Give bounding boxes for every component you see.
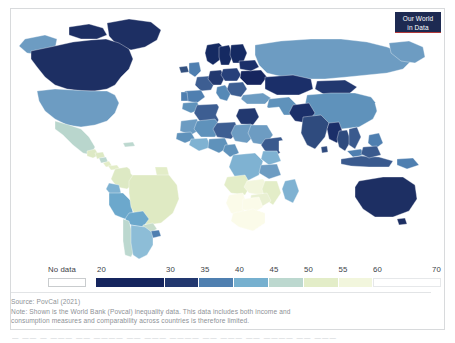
country-canada-arctic-isles[interactable]: [69, 24, 107, 39]
country-cuba[interactable]: [103, 135, 125, 142]
owid-choropleth-figure: Our World in Data No data 20303540455055…: [0, 0, 455, 343]
legend-bin-40-45[interactable]: [234, 278, 269, 287]
country-mongolia[interactable]: [315, 80, 357, 95]
legend-tick-45: 45: [270, 265, 279, 274]
country-papua-new-guinea[interactable]: [397, 158, 419, 169]
chart-footer: Source: PovCal (2021) Note: Shown is the…: [11, 292, 431, 326]
country-hispaniola[interactable]: [123, 142, 135, 147]
country-australia[interactable]: [355, 177, 417, 217]
legend-bin-20-30[interactable]: [96, 278, 165, 287]
country-iceland[interactable]: [174, 48, 189, 56]
country-indonesia[interactable]: [341, 156, 393, 167]
legend-bin-50-55[interactable]: [304, 278, 339, 287]
country-sri-lanka[interactable]: [321, 146, 328, 153]
world-map[interactable]: [11, 9, 444, 261]
owid-logo-line1: Our World: [395, 14, 441, 23]
page-bottom-artifact: — —— — ——— —— ———— —— ——— ———— —— ——— ——…: [12, 334, 432, 342]
country-turkey[interactable]: [241, 93, 271, 104]
legend-tick-60: 60: [373, 265, 382, 274]
legend-scale-swatches[interactable]: [96, 278, 441, 287]
legend-no-data-label: No data: [48, 265, 76, 274]
country-russia[interactable]: [255, 39, 411, 79]
owid-logo[interactable]: Our World in Data: [395, 12, 441, 33]
legend-no-data-swatch[interactable]: [48, 278, 86, 287]
country-ivory-coast-ghana[interactable]: [189, 138, 211, 151]
country-kenya[interactable]: [261, 151, 281, 165]
legend-bin-55-60[interactable]: [339, 278, 374, 287]
legend-tick-40: 40: [235, 265, 244, 274]
country-india[interactable]: [301, 115, 329, 149]
country-tanzania[interactable]: [259, 164, 281, 179]
country-somalia[interactable]: [279, 139, 295, 157]
country-united-kingdom[interactable]: [189, 62, 201, 77]
legend-tick-20: 20: [97, 265, 106, 274]
owid-logo-line2: in Data: [395, 23, 441, 32]
country-vietnam[interactable]: [349, 127, 361, 149]
note-text-line1: Note: Shown is the World Bank (Povcal) i…: [11, 307, 431, 317]
country-new-caledonia[interactable]: [421, 187, 431, 195]
legend-tick-55: 55: [339, 265, 348, 274]
country-new-zealand[interactable]: [428, 211, 441, 229]
country-korea[interactable]: [375, 102, 385, 111]
country-egypt[interactable]: [236, 108, 259, 125]
country-united-states[interactable]: [37, 89, 119, 127]
legend-bin-30-35[interactable]: [165, 278, 200, 287]
country-kazakhstan[interactable]: [265, 75, 313, 95]
legend-bin-45-50[interactable]: [269, 278, 304, 287]
source-text: Source: PovCal (2021): [11, 297, 431, 307]
country-japan[interactable]: [383, 95, 401, 115]
legend-tick-labels: No data 203035404550556070: [11, 265, 444, 276]
legend-bin-35-40[interactable]: [199, 278, 234, 287]
legend-color-bar[interactable]: [11, 278, 444, 287]
country-ireland[interactable]: [179, 66, 189, 73]
legend-tick-30: 30: [166, 265, 175, 274]
country-tasmania[interactable]: [397, 218, 407, 225]
country-uruguay[interactable]: [151, 230, 161, 238]
country-portugal[interactable]: [181, 92, 188, 101]
country-poland[interactable]: [221, 68, 241, 81]
country-ukraine[interactable]: [240, 70, 267, 85]
legend-bin-60-70[interactable]: [373, 278, 441, 287]
legend-tick-70: 70: [432, 265, 441, 274]
country-belarus-baltics[interactable]: [239, 60, 259, 71]
note-text-line2: consumption measures and comparability a…: [11, 316, 431, 326]
country-finland[interactable]: [230, 44, 247, 63]
country-madagascar[interactable]: [282, 179, 299, 203]
country-south-africa[interactable]: [231, 209, 265, 231]
map-legend[interactable]: No data 203035404550556070: [11, 265, 444, 291]
legend-tick-50: 50: [304, 265, 313, 274]
world-map-svg[interactable]: [11, 9, 444, 261]
legend-tick-35: 35: [201, 265, 210, 274]
